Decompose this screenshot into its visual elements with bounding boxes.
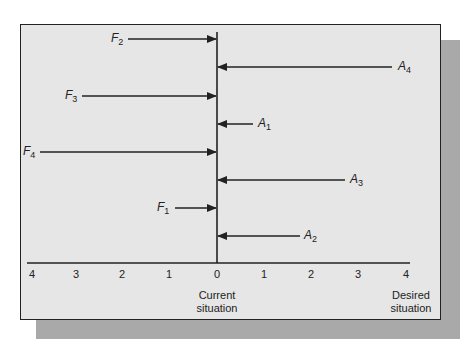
current-situation-label: Currentsituation xyxy=(197,289,238,315)
label-a3: A3 xyxy=(350,172,363,188)
label-f1: F1 xyxy=(157,200,169,216)
desired-situation-label: Desiredsituation xyxy=(391,289,432,315)
label-f3: F3 xyxy=(65,88,77,104)
tick-left-2: 2 xyxy=(119,268,125,280)
label-a2: A2 xyxy=(304,228,317,244)
label-f4: F4 xyxy=(23,144,35,160)
tick-right-1: 1 xyxy=(261,268,267,280)
tick-zero: 0 xyxy=(214,268,220,280)
tick-left-3: 3 xyxy=(73,268,79,280)
tick-left-1: 1 xyxy=(166,268,172,280)
label-a1: A1 xyxy=(258,116,271,132)
tick-right-3: 3 xyxy=(355,268,361,280)
label-f2: F2 xyxy=(111,31,123,47)
label-a4: A4 xyxy=(398,59,411,75)
tick-right-2: 2 xyxy=(308,268,314,280)
tick-right-4: 4 xyxy=(403,268,409,280)
tick-left-4: 4 xyxy=(29,268,35,280)
